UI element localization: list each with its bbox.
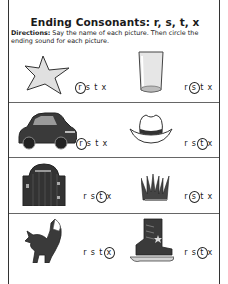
- glass-icon: [137, 50, 165, 94]
- choice-r[interactable]: r: [81, 192, 89, 201]
- choice-r[interactable]: r: [77, 139, 85, 148]
- choices-glass: rstx: [182, 83, 214, 92]
- choice-t[interactable]: t: [93, 139, 101, 148]
- choice-s[interactable]: s: [85, 139, 93, 148]
- choice-t[interactable]: t: [198, 192, 206, 201]
- choice-s[interactable]: s: [84, 83, 92, 92]
- item-car: rstx: [9, 103, 114, 158]
- choices-gate: rstx: [81, 192, 113, 201]
- choices-hat: rstx: [182, 139, 214, 148]
- item-grass: rstx: [114, 158, 219, 213]
- choice-x[interactable]: x: [105, 192, 113, 201]
- choice-r[interactable]: r: [182, 139, 190, 148]
- choice-t[interactable]: t: [198, 139, 206, 148]
- choice-x[interactable]: x: [206, 139, 214, 148]
- choice-r[interactable]: r: [76, 83, 84, 92]
- choice-s[interactable]: s: [190, 192, 198, 201]
- star-icon: [23, 54, 71, 96]
- choice-s[interactable]: s: [89, 248, 97, 257]
- worksheet-title: Ending Consonants: r, s, t, x: [9, 16, 221, 28]
- item-glass: rstx: [114, 47, 219, 102]
- fox-icon: [25, 217, 65, 263]
- skate-icon: [130, 217, 174, 263]
- item-skate: rstx: [114, 214, 219, 269]
- choices-fox: rstx: [81, 248, 113, 257]
- choice-t[interactable]: t: [97, 192, 105, 201]
- choice-x[interactable]: x: [101, 139, 109, 148]
- choice-r[interactable]: r: [182, 248, 190, 257]
- worksheet-page: Ending Consonants: r, s, t, x Directions…: [8, 0, 220, 284]
- choices-skate: rstx: [182, 248, 214, 257]
- choice-r[interactable]: r: [81, 248, 89, 257]
- item-fox: rstx: [9, 214, 114, 269]
- row-3: rstx rstx: [9, 158, 219, 213]
- choice-s[interactable]: s: [190, 83, 198, 92]
- choices-star: rstx: [76, 83, 108, 92]
- item-star: rstx: [9, 47, 114, 102]
- choices-grass: rstx: [182, 192, 214, 201]
- choice-x[interactable]: x: [206, 83, 214, 92]
- choice-t[interactable]: t: [198, 83, 206, 92]
- choice-x[interactable]: x: [206, 248, 214, 257]
- choice-x[interactable]: x: [105, 248, 113, 257]
- gate-icon: [21, 162, 67, 206]
- choice-t[interactable]: t: [92, 83, 100, 92]
- row-2: rstx rstx: [9, 103, 219, 158]
- car-icon: [15, 111, 77, 151]
- choice-x[interactable]: x: [206, 192, 214, 201]
- choices-car: rstx: [77, 139, 109, 148]
- choice-t[interactable]: t: [198, 248, 206, 257]
- row-4: rstx rstx: [9, 214, 219, 269]
- row-1: rstx rstx: [9, 47, 219, 102]
- item-gate: rstx: [9, 158, 114, 213]
- choice-x[interactable]: x: [100, 83, 108, 92]
- grass-icon: [141, 174, 171, 202]
- directions: Directions: Say the name of each picture…: [11, 30, 219, 45]
- hat-icon: [128, 113, 174, 145]
- item-hat: rstx: [114, 103, 219, 158]
